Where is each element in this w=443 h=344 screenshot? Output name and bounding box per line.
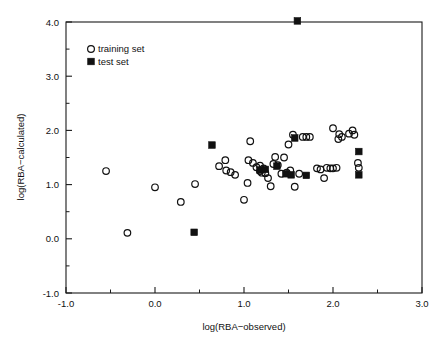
y-axis-title: log(RBA−calculated) xyxy=(15,114,26,201)
y-tick-label: 0.0 xyxy=(46,233,59,244)
data-point-test xyxy=(288,172,295,179)
x-tick-label: -1.0 xyxy=(58,298,74,309)
y-tick-label: 1.0 xyxy=(46,179,59,190)
x-tick-label: 0.0 xyxy=(148,298,161,309)
x-tick-label: 2.0 xyxy=(326,298,339,309)
chart-canvas: -1.00.01.02.03.0-1.00.01.02.03.04.0 log(… xyxy=(0,0,443,344)
y-tick-label: -1.0 xyxy=(43,288,59,299)
data-point-test xyxy=(303,172,310,179)
legend-label-test-set: test set xyxy=(98,56,129,67)
data-point-test xyxy=(294,18,301,25)
legend-label-training-set: training set xyxy=(98,43,145,54)
y-tick-label: 2.0 xyxy=(46,125,59,136)
scatter-plot-figure: -1.00.01.02.03.0-1.00.01.02.03.04.0 log(… xyxy=(0,0,443,344)
data-point-test xyxy=(191,229,198,236)
legend-marker-test-set xyxy=(88,58,95,65)
data-point-test xyxy=(356,172,363,179)
y-tick-label: 3.0 xyxy=(46,71,59,82)
x-tick-label: 3.0 xyxy=(415,298,428,309)
x-axis-title: log(RBA−observed) xyxy=(202,321,285,332)
y-tick-label: 4.0 xyxy=(46,17,59,28)
data-point-test xyxy=(262,166,269,173)
data-point-test xyxy=(356,148,363,155)
data-point-test xyxy=(291,135,298,142)
data-point-test xyxy=(209,142,216,149)
x-tick-label: 1.0 xyxy=(237,298,250,309)
data-point-test xyxy=(274,163,281,170)
